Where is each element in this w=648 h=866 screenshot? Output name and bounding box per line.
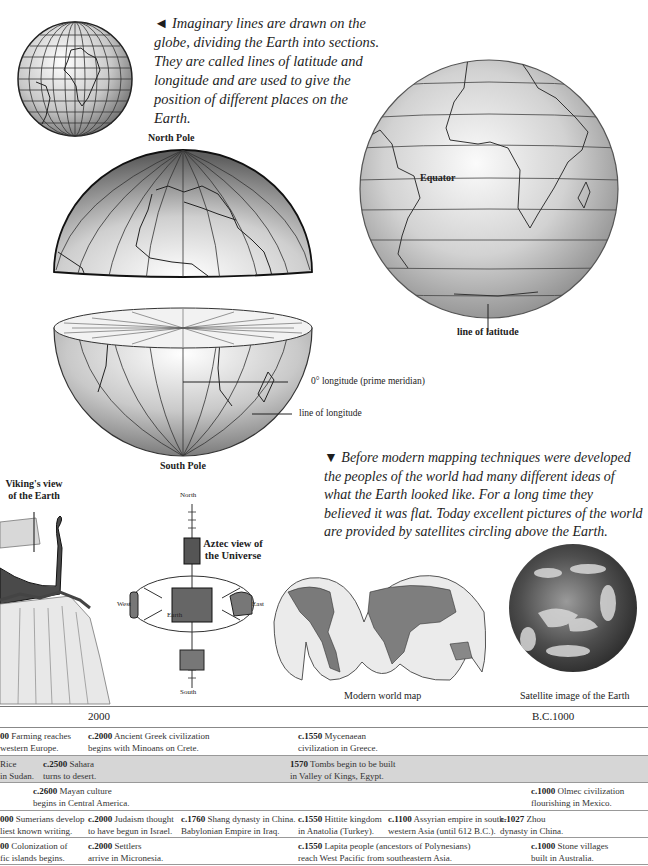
timeline-event: c.1000 Olmec civilizationflourishing in … (531, 785, 624, 809)
equator-label: Equator (420, 172, 456, 183)
modern-world-map (270, 572, 490, 684)
modern-world-map-label: Modern world map (344, 690, 421, 701)
viking-view-label: Viking's view of the Earth (4, 478, 64, 502)
satellite-earth-image (508, 543, 638, 673)
timeline-date-bc1000: B.C.1000 (532, 710, 574, 722)
timeline-event: 00 Farming reacheswestern Europe. (0, 730, 71, 754)
timeline-event: c.2000 Judaism thoughtto have begun in I… (88, 813, 174, 837)
timeline-event: c.2500 Saharaturns to desert. (43, 758, 96, 782)
viking-ship-waterfall-illustration (0, 508, 118, 704)
timeline-event: c.1550 Hittite kingdomin Anatolia (Turke… (298, 813, 382, 837)
timeline-event: 000 Sumerians developliest known writing… (0, 813, 85, 837)
timeline-row-americas: c.2600 Mayan culturebegins in Central Am… (0, 783, 648, 811)
latitude-longitude-caption: ◄ Imaginary lines are drawn on the globe… (154, 14, 384, 128)
satellite-image-label: Satellite image of the Earth (520, 690, 629, 701)
timeline-row-asia: 000 Sumerians developliest known writing… (0, 811, 648, 838)
latitude-globe (358, 58, 620, 320)
timeline-event: c.2000 Settlersarrive in Micronesia. (88, 840, 163, 864)
north-pole-label: North Pole (148, 132, 194, 143)
aztec-earth-label: Earth (167, 611, 182, 619)
aztec-east-label: East (252, 600, 264, 608)
timeline-event: c.1100 Assyrian empire in south-western … (388, 813, 507, 837)
aztec-north-label: North (180, 491, 196, 499)
northern-hemisphere (52, 150, 314, 278)
timeline-date-2000: 2000 (88, 710, 110, 722)
timeline-event: Ricein Sudan. (0, 758, 34, 782)
timeline-event: c.2600 Mayan culturebegins in Central Am… (33, 785, 129, 809)
south-pole-label: South Pole (160, 460, 206, 471)
timeline-event: c.1550 Mycenaeancivilization in Greece. (298, 730, 378, 754)
aztec-west-label: West (117, 600, 131, 608)
small-gridded-globe (16, 20, 134, 138)
timeline-event: c.1760 Shang dynasty in China.Babylonian… (181, 813, 296, 837)
timeline-event: 1570 Tombs begin to be builtin Valley of… (290, 758, 395, 782)
line-of-longitude-label: line of longitude (299, 408, 362, 418)
timeline-event: c.1550 Lapita people (ancestors of Polyn… (298, 840, 470, 864)
southern-hemisphere (52, 306, 314, 458)
aztec-universe-illustration (130, 500, 260, 692)
timeline-row-oceania: 00 Colonization offic islands begins. c.… (0, 838, 648, 865)
timeline-row-africa: Ricein Sudan. c.2500 Saharaturns to dese… (0, 756, 648, 783)
line-of-latitude-label: line of latitude (457, 326, 519, 337)
timeline-event: 00 Colonization offic islands begins. (0, 840, 68, 864)
timeline-row-europe: 00 Farming reacheswestern Europe. c.2000… (0, 728, 648, 756)
timeline-event: c.2000 Ancient Greek civilizationbegins … (88, 730, 209, 754)
aztec-south-label: South (180, 688, 196, 696)
timeline-event: c.1027 Zhoudynasty in China. (500, 813, 563, 837)
prime-meridian-label: 0° longitude (prime meridian) (311, 376, 425, 386)
timeline-header: 2000 B.C.1000 (0, 706, 648, 728)
timeline-event: c.1000 Stone villagesbuilt in Australia. (531, 840, 608, 864)
mapping-history-caption: ▼ Before modern mapping techniques were … (324, 449, 648, 542)
